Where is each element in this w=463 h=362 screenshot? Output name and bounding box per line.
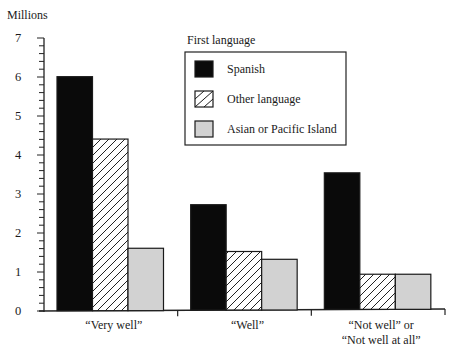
bar-other-language-2	[360, 274, 396, 309]
y-tick-label: 7	[15, 31, 21, 45]
y-tick-label: 1	[15, 265, 21, 279]
bar-other-language-1	[226, 252, 262, 311]
x-tick-labels: “Very well”“Well”“Not well” or“Not well …	[85, 318, 420, 347]
bar-spanish-1	[191, 205, 227, 310]
y-axis-title: Millions	[7, 8, 48, 22]
x-tick-label: “Well”	[231, 318, 264, 332]
legend-label: Asian or Pacific Island	[227, 122, 337, 136]
y-tick-label: 0	[15, 304, 21, 318]
bar-spanish-0	[57, 77, 93, 311]
legend-label: Spanish	[227, 62, 265, 76]
legend-label: Other language	[227, 92, 301, 106]
legend-swatch	[195, 61, 213, 77]
bar-asian-or-pacific-island-2	[395, 274, 431, 309]
legend-title: First language	[187, 33, 255, 47]
bar-asian-or-pacific-island-1	[262, 259, 298, 310]
y-tick-label: 3	[15, 187, 21, 201]
bar-spanish-2	[324, 173, 360, 309]
legend-swatch	[195, 121, 213, 137]
legend: First language SpanishOther languageAsia…	[185, 33, 346, 145]
chart: Millions 01234567 “Very well”“Well”“Not …	[0, 0, 463, 362]
y-tick-label: 6	[15, 70, 21, 84]
y-tick-label: 2	[15, 226, 21, 240]
y-tick-label: 5	[15, 109, 21, 123]
y-ticks: 01234567	[15, 31, 44, 318]
y-tick-label: 4	[15, 148, 22, 162]
x-tick-label: “Not well” or	[349, 318, 414, 332]
bar-asian-or-pacific-island-0	[128, 248, 164, 310]
x-tick-label: “Very well”	[85, 318, 142, 332]
x-tick-label: “Not well at all”	[342, 333, 421, 347]
bar-other-language-0	[93, 139, 129, 311]
